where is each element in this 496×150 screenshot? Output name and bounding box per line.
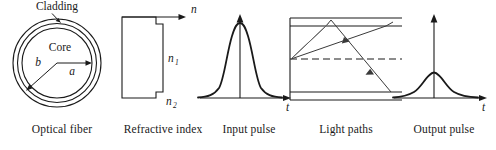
cladding-radius-line (29, 63, 57, 88)
light-paths-waveguide (286, 0, 406, 118)
cladding-radius-label: b (35, 56, 41, 68)
caption-optical-fiber: Optical fiber (0, 122, 124, 136)
index-core-label: n 1 (168, 52, 179, 67)
panel-output-pulse: t Output pulse (392, 0, 496, 150)
svg-text:n: n (168, 52, 174, 64)
output-pulse-curve (393, 73, 478, 98)
core-radius-label: a (69, 65, 75, 77)
svg-text:n: n (166, 95, 172, 107)
light-ray-shallow-path (291, 22, 393, 59)
optical-fiber-cross-section: Cladding Core a b (0, 0, 124, 118)
n-axis-arrowhead (179, 14, 187, 20)
caption-output-pulse: Output pulse (392, 122, 496, 136)
cladding-label: Cladding (36, 0, 78, 13)
light-ray-intermediate-path (291, 23, 329, 59)
caption-light-paths: Light paths (286, 122, 406, 136)
index-cladding-label: n 2 (166, 95, 177, 110)
core-radius-arrowhead (86, 60, 93, 65)
panel-optical-fiber: Cladding Core a b Optical fiber (0, 0, 124, 150)
panel-light-paths: Light paths (286, 0, 406, 150)
core-label: Core (49, 41, 71, 53)
optical-fiber-dispersion-figure: Cladding Core a b Optical fiber n (0, 0, 496, 150)
output-pulse-chart: t (392, 0, 496, 118)
output-pulse-t-label: t (482, 101, 486, 113)
light-ray-steep-path (291, 20, 391, 92)
svg-text:1: 1 (175, 58, 179, 67)
svg-text:2: 2 (173, 101, 177, 110)
output-pulse-amplitude-arrowhead (431, 14, 438, 23)
step-index-profile-outline (122, 17, 163, 98)
input-pulse-amplitude-arrowhead (237, 14, 244, 23)
